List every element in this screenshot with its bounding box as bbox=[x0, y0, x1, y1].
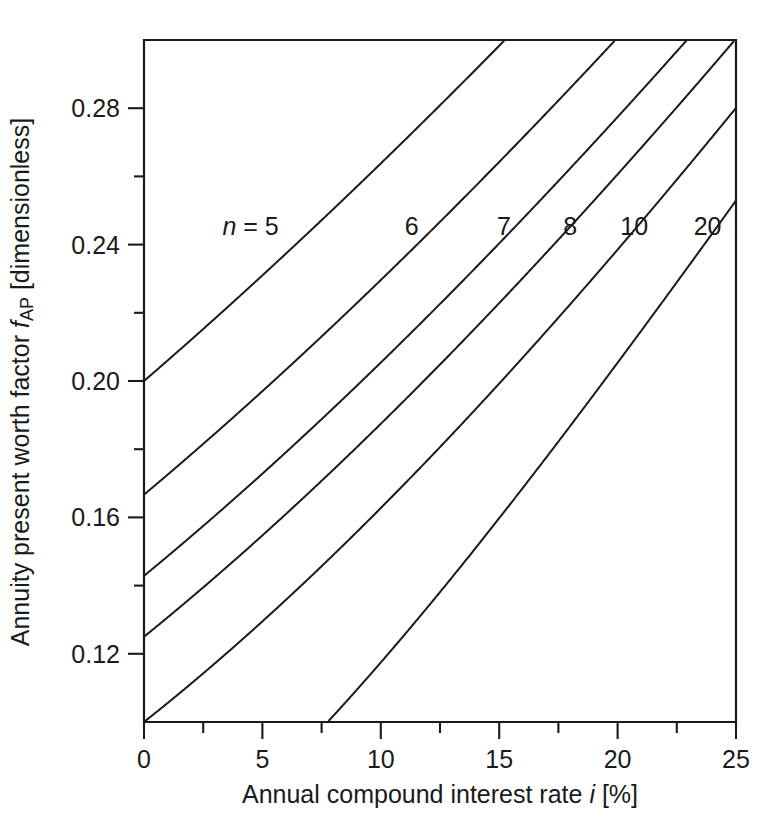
curve-label-n-20: 20 bbox=[694, 212, 722, 240]
curve-label-n-10: 10 bbox=[620, 212, 648, 240]
curve-label-n-6: 6 bbox=[405, 212, 419, 240]
y-tick-label: 0.12 bbox=[71, 640, 120, 668]
annuity-present-worth-factor-chart: 0.120.160.200.240.28 0510152025 n = 5678… bbox=[0, 0, 775, 828]
chart-background bbox=[0, 0, 775, 828]
x-tick-label: 0 bbox=[137, 745, 151, 773]
y-tick-label: 0.20 bbox=[71, 367, 120, 395]
curve-label-n-7: 7 bbox=[497, 212, 511, 240]
y-axis-label-pre: Annuity present worth factor bbox=[6, 328, 34, 646]
y-axis-label-subscript: AP bbox=[17, 297, 37, 321]
curve-label-n-8: 8 bbox=[563, 212, 577, 240]
curve-label-n-5: n = 5 bbox=[222, 212, 278, 240]
x-tick-label: 10 bbox=[367, 745, 395, 773]
y-tick-label: 0.24 bbox=[71, 231, 120, 259]
y-axis-label-symbol: f bbox=[6, 321, 34, 328]
x-tick-label: 25 bbox=[722, 745, 750, 773]
x-tick-label: 20 bbox=[604, 745, 632, 773]
x-axis-label-post: [%] bbox=[595, 780, 638, 808]
chart-figure: 0.120.160.200.240.28 0510152025 n = 5678… bbox=[0, 0, 775, 828]
x-axis-label: Annual compound interest rate i [%] bbox=[144, 782, 736, 807]
y-axis-label-post: [dimensionless] bbox=[6, 118, 34, 297]
x-tick-label: 5 bbox=[255, 745, 269, 773]
y-tick-label: 0.28 bbox=[71, 94, 120, 122]
y-axis-label-wrapper: Annuity present worth factor fAP [dimens… bbox=[0, 0, 42, 760]
y-tick-label: 0.16 bbox=[71, 503, 120, 531]
x-axis-label-pre: Annual compound interest rate bbox=[242, 780, 589, 808]
y-axis-label: Annuity present worth factor fAP [dimens… bbox=[8, 32, 36, 732]
x-tick-label: 15 bbox=[485, 745, 513, 773]
